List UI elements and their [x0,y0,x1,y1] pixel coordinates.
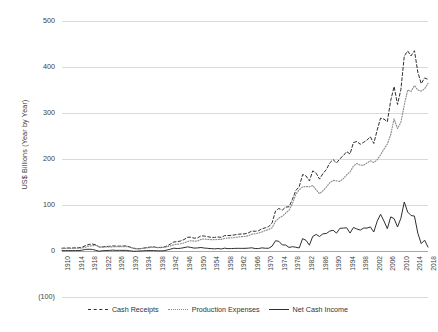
x-tick-label: 1930 [133,256,140,271]
y-tick-label: 100 [43,201,55,208]
legend-label: Net Cash Income [293,305,349,314]
x-tick-label: 1922 [106,256,113,271]
series-line-cash-receipts [62,51,428,249]
x-tick-label: 1986 [323,256,330,271]
y-axis-tick-labels: 5004003002001000(100) [0,0,60,332]
legend-label: Cash Receipts [112,305,159,314]
legend-item-net-cash-income[interactable]: Net Cash Income [269,305,349,314]
x-tick-label: 1974 [282,256,289,271]
series-line-production-expenses [62,83,428,248]
x-tick-label: 1914 [79,256,86,271]
x-tick-label: 1970 [268,256,275,271]
x-tick-label: 1950 [201,256,208,271]
x-tick-label: 2002 [377,256,384,271]
y-tick-label: 500 [43,17,55,24]
x-tick-label: 2006 [390,256,397,271]
y-tick-label: 300 [43,109,55,116]
chart-legend: Cash ReceiptsProduction ExpensesNet Cash… [0,305,436,314]
x-tick-label: 1954 [214,256,221,271]
x-tick-label: 1934 [146,256,153,271]
y-tick-label: 0 [51,247,55,254]
x-tick-label: 2014 [417,256,424,271]
legend-label: Production Expenses [192,305,260,314]
legend-swatch-icon [269,309,289,310]
x-tick-label: 1994 [350,256,357,271]
legend-item-cash-receipts[interactable]: Cash Receipts [88,305,159,314]
x-tick-label: 1982 [309,256,316,271]
x-tick-label: 1918 [92,256,99,271]
series-line-net-cash-income [62,202,428,251]
x-tick-label: 1966 [255,256,262,271]
y-tick-label: 400 [43,63,55,70]
x-tick-label: 1938 [160,256,167,271]
legend-item-production-expenses[interactable]: Production Expenses [168,305,260,314]
x-tick-label: 1910 [65,256,72,271]
x-tick-label: 1962 [241,256,248,271]
x-tick-label: 2010 [404,256,411,271]
legend-swatch-icon [168,309,188,310]
x-tick-label: 1978 [295,256,302,271]
x-tick-label: 1998 [363,256,370,271]
y-tick-label: (100) [38,293,55,300]
x-tick-label: 1926 [119,256,126,271]
y-tick-label: 200 [43,155,55,162]
x-axis-tick-labels: 1910191419181922192619301934193819421946… [62,256,428,300]
x-tick-label: 1958 [228,256,235,271]
x-tick-label: 1990 [336,256,343,271]
x-tick-label: 1946 [187,256,194,271]
x-tick-label: 1942 [173,256,180,271]
x-tick-label: 2018 [431,256,438,271]
legend-swatch-icon [88,309,108,310]
